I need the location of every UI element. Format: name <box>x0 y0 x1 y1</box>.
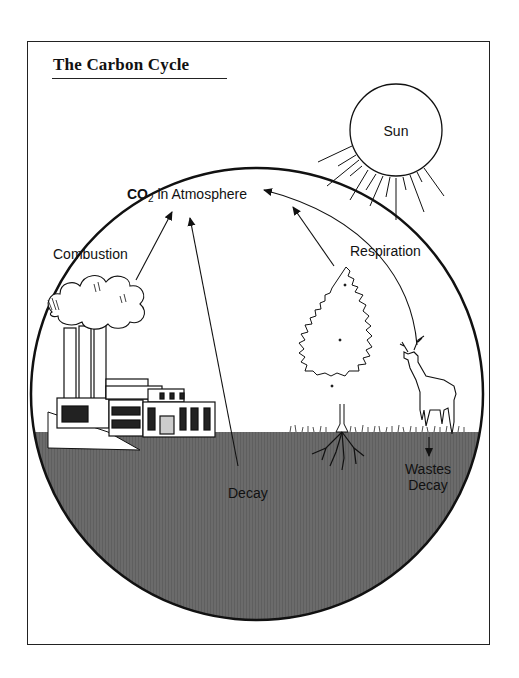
carbon-cycle-scene: Sun CO2 in Atmosphere Combustion Respira… <box>0 0 519 678</box>
decay-label: Decay <box>228 485 268 501</box>
wastes-decay-label: Decay <box>408 477 448 493</box>
factory-icon <box>57 322 215 437</box>
tree-icon <box>299 267 372 432</box>
respiration-label: Respiration <box>350 243 421 259</box>
smoke-cloud-icon <box>48 276 145 329</box>
deer-icon <box>400 336 456 434</box>
co2-formula: CO <box>127 186 148 202</box>
sun-label: Sun <box>384 123 409 139</box>
combustion-arrow <box>136 212 172 280</box>
tree-respiration-arrow <box>293 207 334 266</box>
co2-atmosphere-label: CO2 in Atmosphere <box>127 186 247 204</box>
co2-suffix: in Atmosphere <box>154 186 248 202</box>
sun-icon: Sun <box>318 84 444 220</box>
ground-soil <box>20 412 500 632</box>
wastes-label: Wastes <box>405 461 451 477</box>
combustion-label: Combustion <box>53 246 128 262</box>
